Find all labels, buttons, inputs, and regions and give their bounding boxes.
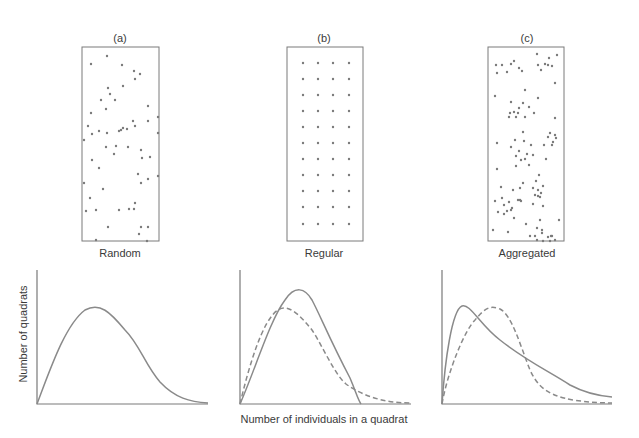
individual-dot (348, 206, 350, 208)
individual-dot (102, 188, 104, 190)
individual-dot (530, 144, 532, 146)
individual-dot (302, 223, 304, 225)
individual-dot (87, 125, 89, 127)
individual-dot (508, 201, 510, 203)
individual-dot (134, 202, 136, 204)
individual-dot (492, 229, 494, 231)
individual-dot (496, 168, 498, 170)
individual-dot (134, 78, 136, 80)
individual-dot (540, 192, 542, 194)
individual-dot (317, 62, 319, 64)
individual-dot (332, 190, 334, 192)
x-axis-label: Number of individuals in a quadrat (241, 413, 408, 425)
panel-letter-c: (c) (521, 32, 534, 44)
individual-dot (332, 158, 334, 160)
individual-dot (317, 94, 319, 96)
individual-dot (552, 141, 554, 143)
individual-dot (513, 60, 515, 62)
individual-dot (514, 139, 516, 141)
individual-dot (332, 142, 334, 144)
individual-dot (118, 209, 120, 211)
individual-dot (332, 110, 334, 112)
individual-dot (157, 175, 159, 177)
individual-dot (554, 239, 556, 241)
individual-dot (139, 73, 141, 75)
individual-dot (506, 71, 508, 73)
individual-dot (515, 116, 517, 118)
individual-dot (83, 182, 85, 184)
individual-dot (105, 108, 107, 110)
individual-dot (548, 57, 550, 59)
individual-dot (501, 64, 503, 66)
individual-dot (535, 180, 537, 182)
panel-random: (a) Random (82, 32, 159, 259)
individual-dot (302, 78, 304, 80)
individual-dot (317, 174, 319, 176)
dots-random (83, 55, 159, 242)
individual-dot (140, 182, 142, 184)
label-regular: Regular (305, 247, 344, 259)
individual-dot (497, 211, 499, 213)
individual-dot (122, 127, 124, 129)
individual-dot (302, 94, 304, 96)
individual-dot (115, 145, 117, 147)
individual-dot (89, 197, 91, 199)
individual-dot (134, 125, 136, 127)
individual-dot (100, 99, 102, 101)
individual-dot (534, 194, 536, 196)
individual-dot (317, 158, 319, 160)
individual-dot (524, 116, 526, 118)
individual-dot (107, 87, 109, 89)
individual-dot (551, 65, 553, 67)
individual-dot (510, 209, 512, 211)
individual-dot (332, 126, 334, 128)
individual-dot (147, 120, 149, 122)
individual-dot (140, 226, 142, 228)
individual-dot (317, 78, 319, 80)
expected-random-curve (240, 308, 411, 404)
individual-dot (332, 78, 334, 80)
individual-dot (506, 210, 508, 212)
individual-dot (542, 185, 544, 187)
individual-dot (332, 174, 334, 176)
quadrat-box-random (82, 47, 159, 241)
expected-random-curve (442, 307, 612, 404)
individual-dot (128, 208, 130, 210)
individual-dot (302, 110, 304, 112)
individual-dot (302, 158, 304, 160)
individual-dot (137, 173, 139, 175)
dots-aggregated (492, 53, 560, 242)
individual-dot (522, 131, 524, 133)
individual-dot (83, 139, 85, 141)
individual-dot (550, 235, 552, 237)
panel-aggregated: (c) Aggregated (488, 32, 564, 259)
individual-dot (537, 195, 539, 197)
individual-dot (539, 219, 541, 221)
individual-dot (317, 206, 319, 208)
individual-dot (554, 117, 556, 119)
curves-random (37, 307, 208, 404)
individual-dot (105, 146, 107, 148)
individual-dot (522, 102, 524, 104)
individual-dot (106, 132, 108, 134)
individual-dot (302, 174, 304, 176)
individual-dot (523, 140, 525, 142)
individual-dot (520, 200, 522, 202)
label-random: Random (99, 247, 141, 259)
chart-regular (240, 270, 411, 404)
observed-curve (240, 290, 361, 404)
individual-dot (529, 235, 531, 237)
individual-dot (532, 187, 534, 189)
individual-dot (317, 142, 319, 144)
individual-dot (515, 155, 517, 157)
individual-dot (549, 240, 551, 242)
individual-dot (547, 136, 549, 138)
individual-dot (524, 158, 526, 160)
individual-dot (532, 154, 534, 156)
distribution-figure: (a) Random (b) Regular (c) Aggregated Nu… (0, 0, 639, 438)
individual-dot (127, 146, 129, 148)
individual-dot (317, 223, 319, 225)
individual-dot (494, 200, 496, 202)
individual-dot (90, 112, 92, 114)
individual-dot (500, 186, 502, 188)
